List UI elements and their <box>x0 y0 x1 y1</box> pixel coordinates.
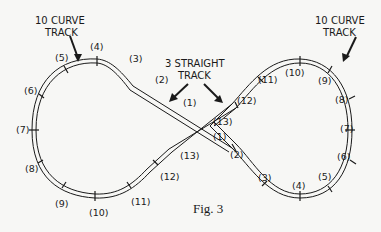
right-loop-label: (6) <box>337 151 350 162</box>
right-loop-label: (11) <box>258 74 278 85</box>
left-loop-label: (6) <box>24 85 37 96</box>
right-loop-label: (5) <box>318 171 331 182</box>
straight-b-label: (1) <box>213 131 226 142</box>
straight-callout-line2: TRACK <box>177 70 211 81</box>
right-loop-label: (7) <box>340 123 353 134</box>
left-curve-callout-line1: 10 CURVE <box>35 15 85 26</box>
straight-a-label: (1) <box>183 97 196 108</box>
right-loop-label: (8) <box>335 94 348 105</box>
left-loop-label: (10) <box>89 207 109 218</box>
left-loop-track <box>32 59 172 198</box>
left-curve-callout-line2: TRACK <box>44 27 78 38</box>
left-loop-label: (11) <box>131 196 151 207</box>
straight-b-label: (2) <box>230 149 243 160</box>
callout-arrows <box>70 36 356 103</box>
right-curve-callout-line2: TRACK <box>322 27 356 38</box>
straight-b-label: (13) <box>180 150 200 161</box>
right-loop-label: (3) <box>258 172 271 183</box>
straight-callout-line1: 3 STRAIGHT <box>165 58 226 69</box>
right-loop-label: (4) <box>292 180 305 191</box>
left-loop-label: (5) <box>55 52 68 63</box>
right-loop-label: (12) <box>237 95 257 106</box>
figure-8-track-diagram: 10 CURVE TRACK 10 CURVE TRACK 3 STRAIGHT… <box>0 0 381 232</box>
left-loop-label: (3) <box>129 53 142 64</box>
right-loop-label: (9) <box>318 75 331 86</box>
left-loop-label: (4) <box>90 41 103 52</box>
straight-a-label: (13) <box>213 116 233 127</box>
straight-a-label: (2) <box>155 74 168 85</box>
figure-caption: Fig. 3 <box>193 201 223 216</box>
left-loop-label: (8) <box>25 163 38 174</box>
left-loop-label: (12) <box>160 171 180 182</box>
right-loop-label: (10) <box>285 67 305 78</box>
left-loop-label: (7) <box>16 124 29 135</box>
right-curve-callout-line1: 10 CURVE <box>315 15 365 26</box>
left-loop-label: (9) <box>55 198 68 209</box>
